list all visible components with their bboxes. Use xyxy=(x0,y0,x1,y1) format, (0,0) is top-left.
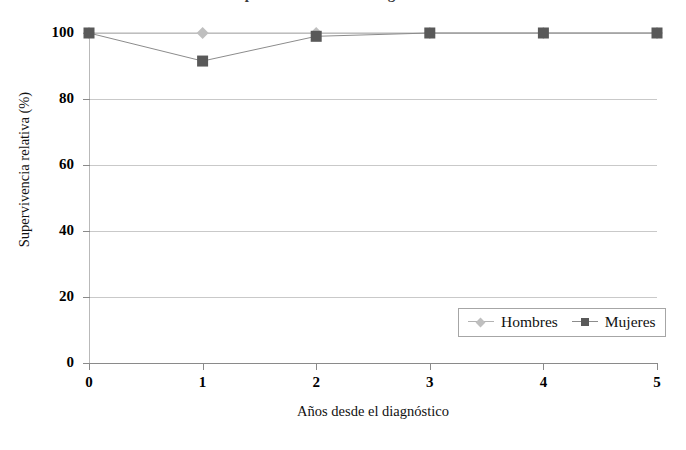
legend-entry-mujeres[interactable]: Mujeres xyxy=(572,313,656,331)
legend-label: Hombres xyxy=(501,313,558,331)
x-axis-title: Años desde el diagnóstico xyxy=(89,403,657,420)
x-tick-mark xyxy=(89,363,90,370)
data-point-square xyxy=(84,28,95,39)
x-tick-mark xyxy=(203,363,204,370)
data-point-square xyxy=(424,28,435,39)
legend-key-marker xyxy=(581,318,589,326)
data-point-square xyxy=(652,28,663,39)
x-tick-label: 2 xyxy=(296,374,336,391)
data-point-square xyxy=(197,56,208,67)
x-axis-line xyxy=(89,363,658,364)
legend-label: Mujeres xyxy=(605,313,656,331)
x-tick-mark xyxy=(543,363,544,370)
legend-entry-hombres[interactable]: Hombres xyxy=(468,313,558,331)
data-point-square xyxy=(311,31,322,42)
y-tick-label: 60 xyxy=(0,156,74,173)
x-tick-label: 1 xyxy=(183,374,223,391)
legend-marker-diamond-icon xyxy=(468,316,494,328)
x-tick-label: 5 xyxy=(637,374,677,391)
y-tick-label: 100 xyxy=(0,24,74,41)
x-tick-label: 3 xyxy=(410,374,450,391)
legend-marker-square-icon xyxy=(572,316,598,328)
y-tick-label: 80 xyxy=(0,90,74,107)
y-tick-label: 0 xyxy=(0,354,74,371)
x-tick-label: 4 xyxy=(523,374,563,391)
y-tick-label: 40 xyxy=(0,222,74,239)
y-axis-title: Supervivencia relativa (%) xyxy=(16,60,33,280)
legend-key-marker xyxy=(476,317,486,327)
x-tick-label: 0 xyxy=(69,374,109,391)
x-tick-mark xyxy=(657,363,658,370)
series-line xyxy=(89,33,657,61)
chart-legend[interactable]: HombresMujeres xyxy=(458,308,666,337)
y-tick-label: 20 xyxy=(0,288,74,305)
x-tick-mark xyxy=(430,363,431,370)
x-tick-mark xyxy=(316,363,317,370)
relative-survival-line-chart: 020406080100 012345 Supervivencia relati… xyxy=(0,0,686,450)
data-point-diamond xyxy=(197,27,209,39)
data-point-square xyxy=(538,28,549,39)
